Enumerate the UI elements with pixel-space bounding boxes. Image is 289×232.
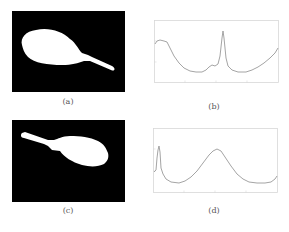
panel-label-a: (a) xyxy=(53,97,83,107)
panel-label-d: (d) xyxy=(199,206,229,216)
plot-d-line xyxy=(154,146,277,183)
silhouette-image-a xyxy=(12,11,125,92)
plot-b-line xyxy=(155,31,278,72)
silhouette-shape-a xyxy=(12,11,125,92)
silhouette-shape-c xyxy=(12,120,125,202)
plot-b-svg xyxy=(154,20,279,84)
plot-d-svg xyxy=(153,128,278,194)
plot-d xyxy=(153,128,278,194)
panel-label-b: (b) xyxy=(199,102,229,112)
panel-label-c: (c) xyxy=(53,206,83,216)
plot-b xyxy=(154,20,279,84)
plot-b-ticks xyxy=(155,41,248,83)
silhouette-image-c xyxy=(12,120,125,202)
plot-b-frame xyxy=(155,21,279,83)
plot-d-ticks xyxy=(154,149,247,193)
